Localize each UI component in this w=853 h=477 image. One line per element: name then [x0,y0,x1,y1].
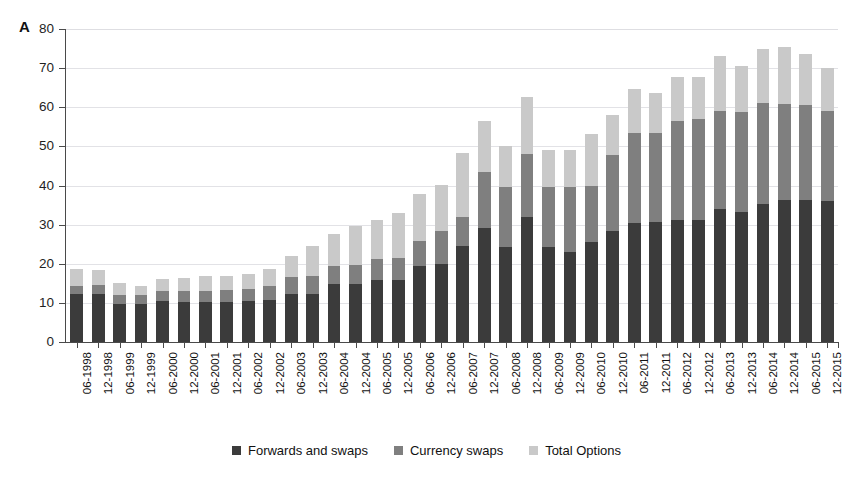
stacked-bar-chart-figure: A 01020304050607080 Forwards and swapsCu… [0,0,853,477]
x-axis-tick [120,343,121,348]
bar-segment-total-options [478,121,491,172]
bar-segment-forwards-and-swaps [778,200,791,342]
bar-segment-total-options [606,115,619,155]
bar-segment-total-options [735,66,748,112]
legend-item-total-options[interactable]: Total Options [529,444,621,457]
bar-06-2012 [671,29,684,342]
bar-segment-total-options [692,77,705,119]
x-axis-tick-label: 12-2007 [489,352,501,416]
x-axis-tick-label: 06-2015 [811,352,823,416]
x-axis-tick-label: 06-2001 [210,352,222,416]
x-axis-tick-label: 06-2005 [382,352,394,416]
bar-segment-forwards-and-swaps [199,302,212,342]
bar-segment-forwards-and-swaps [349,284,362,342]
bar-segment-forwards-and-swaps [156,301,169,342]
x-axis-tick-label: 06-2011 [639,352,651,416]
y-axis-tick-label: 80 [12,22,54,36]
bar-segment-forwards-and-swaps [799,200,812,342]
x-axis-tick-label: 12-2009 [575,352,587,416]
x-axis-tick-label: 06-1999 [125,352,137,416]
bar-segment-total-options [220,276,233,290]
bar-06-2005 [371,29,384,342]
bar-12-2009 [564,29,577,342]
x-axis-tick [763,343,764,348]
bar-06-2010 [585,29,598,342]
bar-12-2002 [263,29,276,342]
y-axis-tick [59,68,65,69]
bar-segment-total-options [371,220,384,258]
x-axis-tick [205,343,206,348]
x-axis-tick [420,343,421,348]
x-axis-tick [838,343,839,348]
x-axis-tick [77,343,78,348]
x-axis-tick [248,343,249,348]
x-axis-tick-label: 12-2012 [704,352,716,416]
bar-segment-total-options [564,150,577,188]
bar-06-1999 [113,29,126,342]
legend-item-currency-swaps[interactable]: Currency swaps [394,444,503,457]
x-axis-tick-label: 12-2013 [747,352,759,416]
chart-legend: Forwards and swapsCurrency swapsTotal Op… [0,444,853,457]
x-axis-tick [291,343,292,348]
bar-12-1998 [92,29,105,342]
y-axis-tick-label: 20 [12,257,54,271]
bar-segment-forwards-and-swaps [113,304,126,342]
x-axis-tick [484,343,485,348]
bar-12-2011 [649,29,662,342]
x-axis-tick-label: 12-1998 [103,352,115,416]
bar-segment-forwards-and-swaps [606,231,619,342]
bar-segment-currency-swaps [178,291,191,302]
y-axis-tick [59,146,65,147]
x-axis-tick [720,343,721,348]
x-axis-tick [506,343,507,348]
bar-12-2001 [220,29,233,342]
bar-segment-currency-swaps [392,258,405,281]
bar-segment-total-options [392,213,405,257]
x-axis-tick-label: 06-2006 [425,352,437,416]
x-axis-tick [441,343,442,348]
bar-segment-currency-swaps [113,295,126,304]
x-axis-tick [163,343,164,348]
bar-12-2003 [306,29,319,342]
bar-segment-currency-swaps [70,286,83,295]
bar-segment-total-options [242,274,255,289]
legend-item-forwards-and-swaps[interactable]: Forwards and swaps [232,444,368,457]
bar-segment-currency-swaps [735,112,748,212]
x-axis-tick [827,343,828,348]
bar-12-2013 [735,29,748,342]
bar-segment-forwards-and-swaps [242,301,255,342]
bar-segment-forwards-and-swaps [714,209,727,342]
bar-segment-currency-swaps [435,231,448,264]
legend-swatch-icon [529,446,538,455]
bar-segment-forwards-and-swaps [135,304,148,342]
bar-segment-currency-swaps [306,276,319,293]
x-axis-tick [591,343,592,348]
bar-segment-currency-swaps [542,187,555,247]
bar-06-2011 [628,29,641,342]
x-axis-tick [527,343,528,348]
bar-segment-currency-swaps [156,291,169,301]
x-axis-line [65,342,839,343]
bar-segment-total-options [521,97,534,154]
bar-segment-forwards-and-swaps [521,217,534,342]
x-axis-tick-label: 12-2002 [275,352,287,416]
x-axis-tick [656,343,657,348]
y-axis-tick-label: 60 [12,100,54,114]
bar-segment-total-options [199,276,212,291]
bar-segment-currency-swaps [349,265,362,284]
x-axis-tick [334,343,335,348]
bar-segment-currency-swaps [521,154,534,217]
x-axis-tick [398,343,399,348]
bar-segment-currency-swaps [671,121,684,221]
bar-segment-forwards-and-swaps [413,266,426,342]
bar-12-2010 [606,29,619,342]
bar-segment-forwards-and-swaps [628,223,641,342]
bar-segment-currency-swaps [285,277,298,293]
bar-segment-total-options [757,49,770,104]
bar-segment-total-options [671,77,684,121]
bar-segment-total-options [285,256,298,278]
bar-segment-forwards-and-swaps [220,302,233,342]
bar-segment-total-options [349,226,362,265]
bar-segment-currency-swaps [692,119,705,220]
bar-segment-currency-swaps [135,295,148,304]
